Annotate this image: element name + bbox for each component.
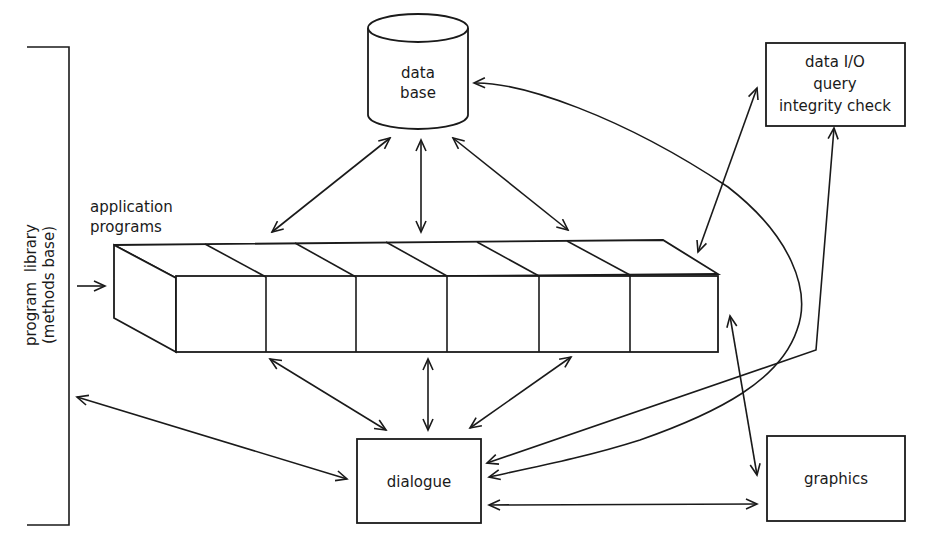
- library-dialogue-arrow: [77, 397, 347, 479]
- program-library-label: program library (methods base): [22, 224, 58, 346]
- application-label-line2: programs: [90, 218, 162, 236]
- graphics-label: graphics: [804, 470, 868, 488]
- app-graphics-arrow: [730, 316, 757, 475]
- graphics-node: graphics: [767, 436, 905, 521]
- app-dialogue-arrows: [270, 357, 571, 430]
- dataio-app-arrow: [698, 88, 757, 252]
- database-node: data base: [368, 14, 468, 129]
- data-io-node: data I/O query integrity check: [766, 43, 905, 126]
- data-io-label: data I/O: [805, 53, 865, 71]
- query-label: query: [813, 75, 856, 93]
- architecture-diagram: program library (methods base) data base…: [0, 0, 926, 541]
- application-programs-bar: [114, 240, 718, 352]
- dialogue-graphics-arrow: [489, 504, 757, 505]
- application-programs-label: application programs: [90, 198, 173, 236]
- database-label-line1: data: [401, 64, 435, 82]
- dialogue-node: dialogue: [357, 439, 481, 523]
- program-library-title: program library: [22, 224, 40, 346]
- db-app-arrows: [272, 138, 568, 232]
- database-label-line2: base: [400, 84, 436, 102]
- integrity-check-label: integrity check: [779, 97, 891, 115]
- program-library-subtitle: (methods base): [40, 226, 58, 344]
- dialogue-label: dialogue: [387, 473, 451, 491]
- application-label-line1: application: [90, 198, 173, 216]
